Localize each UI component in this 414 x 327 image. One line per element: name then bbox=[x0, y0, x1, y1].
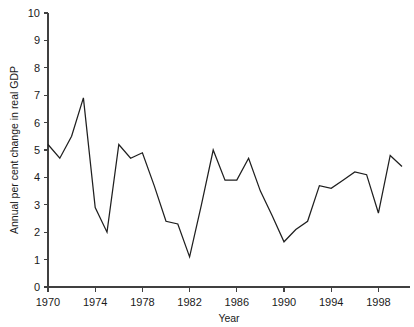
y-tick-label: 2 bbox=[34, 226, 40, 238]
y-axis-ticks: 012345678910 bbox=[28, 7, 48, 293]
y-tick-label: 1 bbox=[34, 254, 40, 266]
gdp-line-chart: 012345678910 197019741978198219861990199… bbox=[0, 0, 414, 327]
y-tick-label: 5 bbox=[34, 144, 40, 156]
y-tick-label: 3 bbox=[34, 199, 40, 211]
x-tick-label: 1974 bbox=[83, 296, 107, 308]
x-axis-ticks: 19701974197819821986199019941998 bbox=[36, 287, 391, 308]
gdp-series-line bbox=[48, 98, 402, 257]
y-tick-label: 10 bbox=[28, 7, 40, 19]
x-tick-label: 1990 bbox=[272, 296, 296, 308]
y-tick-label: 8 bbox=[34, 62, 40, 74]
chart-svg: 012345678910 197019741978198219861990199… bbox=[0, 0, 414, 327]
x-tick-label: 1986 bbox=[225, 296, 249, 308]
x-axis-title: Year bbox=[218, 312, 240, 324]
y-tick-label: 7 bbox=[34, 89, 40, 101]
y-tick-label: 0 bbox=[34, 281, 40, 293]
x-tick-label: 1982 bbox=[177, 296, 201, 308]
x-tick-label: 1978 bbox=[130, 296, 154, 308]
x-tick-label: 1994 bbox=[319, 296, 343, 308]
y-tick-label: 4 bbox=[34, 171, 40, 183]
y-axis-title: Annual per cent change in real GDP bbox=[8, 66, 20, 234]
y-tick-label: 6 bbox=[34, 117, 40, 129]
x-tick-label: 1970 bbox=[36, 296, 60, 308]
x-tick-label: 1998 bbox=[366, 296, 390, 308]
y-tick-label: 9 bbox=[34, 34, 40, 46]
